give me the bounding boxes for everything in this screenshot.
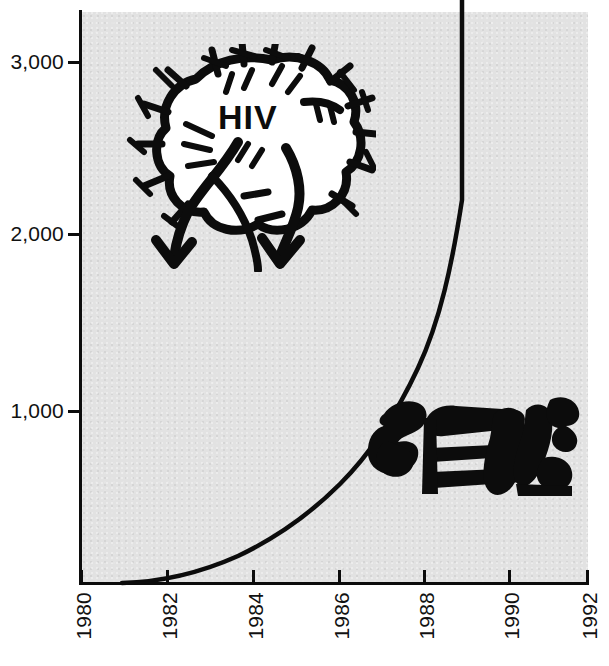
chart-figure: 3,000 2,000 1,000 1980 1982 1984 1986 19… — [0, 0, 609, 666]
hiv-label: HIV — [218, 98, 278, 136]
hiv-virus-svg: HIV — [126, 44, 376, 272]
hiv-virus-illustration: HIV — [126, 44, 376, 272]
sex-figures-svg — [366, 396, 584, 508]
sex-figures-illustration — [366, 396, 584, 508]
